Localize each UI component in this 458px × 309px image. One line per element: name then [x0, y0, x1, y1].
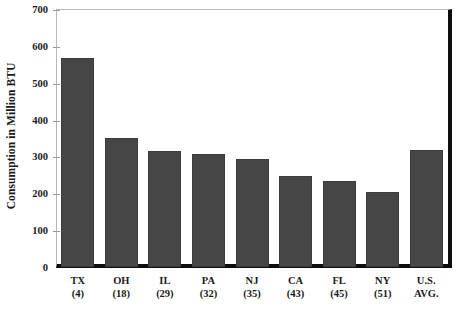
x-tick-label-secondary: AVG. [404, 287, 448, 300]
x-tick-label-primary: OH [100, 274, 144, 287]
x-tick-label: U.S.AVG. [404, 274, 448, 300]
y-tick-label: 700 [32, 4, 48, 15]
y-axis-title-text: Consumption in Million BTU [5, 63, 17, 210]
bar [61, 58, 94, 267]
y-tick-label: 500 [32, 77, 48, 88]
x-tick-label-primary: PA [187, 274, 231, 287]
x-tick-label-primary: TX [56, 274, 100, 287]
bar [192, 154, 225, 267]
x-tick-label-secondary: (45) [317, 287, 361, 300]
bar [236, 159, 269, 267]
x-tick-label: NJ(35) [230, 274, 274, 300]
y-tick-label: 600 [32, 40, 48, 51]
x-tick-label-secondary: (18) [100, 287, 144, 300]
y-tick-label: 100 [32, 225, 48, 236]
x-tick-label-secondary: (32) [187, 287, 231, 300]
y-tick-label: 0 [43, 262, 48, 273]
y-tick-label: 400 [32, 114, 48, 125]
x-tick-label-secondary: (29) [143, 287, 187, 300]
bars-layer [56, 9, 448, 267]
x-axis-tick-labels: TX(4)OH(18)IL(29)PA(32)NJ(35)CA(43)FL(45… [56, 274, 448, 309]
x-tick-label: CA(43) [274, 274, 318, 300]
x-tick-label-primary: U.S. [404, 274, 448, 287]
x-tick-label-primary: CA [274, 274, 318, 287]
x-tick-label-primary: IL [143, 274, 187, 287]
x-tick-label-secondary: (35) [230, 287, 274, 300]
x-tick-label: PA(32) [187, 274, 231, 300]
x-tick-label-secondary: (4) [56, 287, 100, 300]
y-tick-label: 300 [32, 151, 48, 162]
x-tick-label: TX(4) [56, 274, 100, 300]
bar [323, 181, 356, 267]
x-tick-label-primary: NY [361, 274, 405, 287]
x-tick-label-primary: NJ [230, 274, 274, 287]
x-tick-label: FL(45) [317, 274, 361, 300]
x-tick-label-primary: FL [317, 274, 361, 287]
y-axis-title: Consumption in Million BTU [0, 0, 22, 272]
bar [366, 192, 399, 267]
x-tick-label-secondary: (51) [361, 287, 405, 300]
y-axis-tick-labels: 7006005004003002001000 [20, 0, 52, 272]
x-tick-label-secondary: (43) [274, 287, 318, 300]
y-tick-label: 200 [32, 188, 48, 199]
bar-chart: Consumption in Million BTU 7006005004003… [0, 0, 458, 309]
x-tick-label: NY(51) [361, 274, 405, 300]
bar [410, 150, 443, 267]
bar [148, 151, 181, 267]
bar [105, 138, 138, 267]
x-tick-label: IL(29) [143, 274, 187, 300]
x-tick-label: OH(18) [100, 274, 144, 300]
bar [279, 176, 312, 267]
